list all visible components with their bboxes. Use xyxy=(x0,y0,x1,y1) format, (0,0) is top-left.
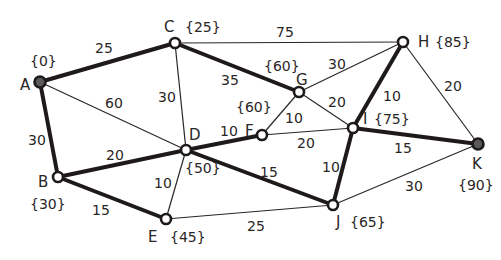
edge-i-k xyxy=(353,128,478,144)
node-a xyxy=(35,77,46,88)
node-d xyxy=(181,145,191,155)
node-label-e: E xyxy=(148,228,157,246)
node-distance-i: {75} xyxy=(374,111,410,127)
node-distance-f: {60} xyxy=(236,99,272,115)
edge-weight-a-c: 25 xyxy=(95,40,113,56)
node-k xyxy=(473,139,484,150)
edge-c-h xyxy=(175,42,403,43)
edge-weight-g-i: 20 xyxy=(328,94,346,110)
edge-weight-i-j: 10 xyxy=(322,159,340,175)
edge-weight-i-k: 15 xyxy=(394,140,412,156)
edge-weight-a-d: 60 xyxy=(105,95,123,111)
edge-weight-d-f: 10 xyxy=(220,123,238,139)
edge-weight-f-i: 20 xyxy=(297,135,315,151)
node-e xyxy=(161,214,171,224)
node-distance-e: {45} xyxy=(170,229,206,245)
edge-weight-c-g: 35 xyxy=(221,72,239,88)
edge-h-k xyxy=(403,42,478,144)
edge-weight-c-h: 75 xyxy=(276,24,294,40)
node-distance-b: {30} xyxy=(30,196,66,212)
edge-weight-f-g: 10 xyxy=(285,110,303,126)
edge-weight-b-d: 20 xyxy=(106,147,124,163)
edge-weight-c-d: 30 xyxy=(158,89,176,105)
edge-weight-j-k: 30 xyxy=(405,178,423,194)
node-label-f: F xyxy=(245,122,254,140)
node-label-b: B xyxy=(38,173,48,191)
edge-e-j xyxy=(166,205,333,219)
edge-weight-g-h: 30 xyxy=(328,56,346,72)
node-distance-k: {90} xyxy=(458,177,494,193)
edge-b-e xyxy=(58,177,166,219)
edge-c-d xyxy=(175,43,186,150)
node-distance-g: {60} xyxy=(264,58,300,74)
node-distance-a: {0} xyxy=(30,53,57,69)
node-distance-c: {25} xyxy=(185,19,221,35)
edge-weight-a-b: 30 xyxy=(28,132,46,148)
node-label-j: J xyxy=(335,213,340,231)
node-j xyxy=(328,200,338,210)
graph-diagram: 6030751010203020202530253035201510151010… xyxy=(0,0,501,260)
node-distance-j: {65} xyxy=(350,214,386,230)
node-label-d: D xyxy=(189,126,201,144)
node-b xyxy=(53,172,63,182)
node-label-a: A xyxy=(20,76,31,94)
node-f xyxy=(257,130,267,140)
edge-f-i xyxy=(262,128,353,135)
node-distance-d: {50} xyxy=(185,160,221,176)
node-c xyxy=(170,38,180,48)
node-label-h: H xyxy=(418,33,429,51)
edge-weight-h-i: 10 xyxy=(383,88,401,104)
edge-a-b xyxy=(40,82,58,177)
node-h xyxy=(398,37,408,47)
edge-weight-b-e: 15 xyxy=(92,202,110,218)
edge-weight-e-j: 25 xyxy=(247,218,265,234)
edge-weight-h-k: 20 xyxy=(444,78,462,94)
node-label-i: I xyxy=(363,110,367,128)
node-distance-h: {85} xyxy=(435,34,471,50)
edge-weight-d-j: 15 xyxy=(260,164,278,180)
node-label-k: K xyxy=(472,155,483,173)
edge-weight-d-e: 10 xyxy=(154,175,172,191)
node-i xyxy=(348,123,358,133)
node-label-c: C xyxy=(164,18,174,36)
